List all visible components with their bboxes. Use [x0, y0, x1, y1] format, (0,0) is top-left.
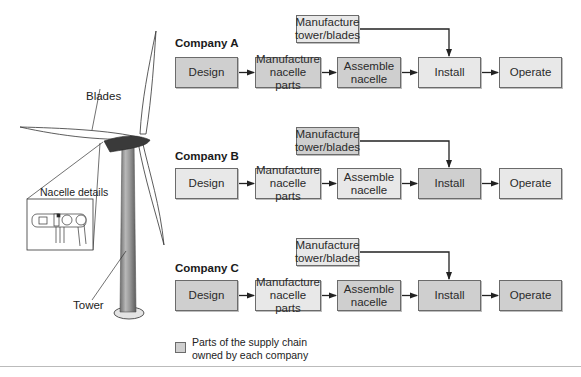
step-label: Install: [434, 177, 464, 190]
legend-text-line1: Parts of the supply chain: [192, 336, 308, 349]
step-label: Install: [434, 289, 464, 302]
step-label: Install: [434, 66, 464, 79]
company-a-side-step-label: Manufacture tower/blades: [295, 16, 360, 42]
company-b-side-step-box: Manufacture tower/blades: [296, 127, 359, 155]
step-label: Design: [189, 66, 225, 79]
step-label: Operate: [510, 66, 552, 79]
company-b-step-design: Design: [175, 168, 238, 199]
company-b-side-flow-arrow: [359, 141, 449, 167]
company-a-step-install: Install: [418, 57, 481, 88]
company-c-side-step-label: Manufacture tower/blades: [295, 239, 360, 265]
company-a-side-step-box: Manufacture tower/blades: [296, 15, 359, 43]
step-label: Design: [189, 289, 225, 302]
step-label: Assemble nacelle: [338, 283, 400, 309]
company-b-side-step-label: Manufacture tower/blades: [295, 128, 360, 154]
supply-chain-diagram: Blades Nacelle details Tower Company A M…: [0, 0, 581, 377]
company-a-step-design: Design: [175, 57, 238, 88]
company-b-step-install: Install: [418, 168, 481, 199]
company-a-side-flow-arrow: [359, 29, 449, 56]
step-label: Manufacture nacelle parts: [256, 164, 320, 203]
step-label: Assemble nacelle: [338, 60, 400, 86]
bottom-divider: [0, 366, 581, 367]
company-c-step-assemble-nacelle: Assemble nacelle: [337, 280, 401, 311]
step-label: Manufacture nacelle parts: [256, 276, 320, 315]
company-c-side-flow-arrow: [359, 252, 449, 279]
company-a-step-manufacture-nacelle-parts: Manufacture nacelle parts: [255, 57, 321, 88]
step-label: Assemble nacelle: [338, 171, 400, 197]
company-a-label: Company A: [175, 37, 238, 49]
company-c-step-install: Install: [418, 280, 481, 311]
step-label: Operate: [510, 289, 552, 302]
legend-text-line2: owned by each company: [192, 349, 308, 362]
company-c-step-manufacture-nacelle-parts: Manufacture nacelle parts: [255, 280, 321, 311]
company-b-step-assemble-nacelle: Assemble nacelle: [337, 168, 401, 199]
company-b-step-manufacture-nacelle-parts: Manufacture nacelle parts: [255, 168, 321, 199]
legend-text: Parts of the supply chain owned by each …: [192, 336, 308, 362]
step-label: Design: [189, 177, 225, 190]
company-a-step-operate: Operate: [499, 57, 562, 88]
company-c-step-operate: Operate: [499, 280, 562, 311]
company-c-label: Company C: [175, 262, 239, 274]
company-b-step-operate: Operate: [499, 168, 562, 199]
legend-owned-swatch: [175, 342, 186, 353]
company-a-step-assemble-nacelle: Assemble nacelle: [337, 57, 401, 88]
company-c-step-design: Design: [175, 280, 238, 311]
step-label: Operate: [510, 177, 552, 190]
company-b-label: Company B: [175, 150, 239, 162]
step-label: Manufacture nacelle parts: [256, 53, 320, 92]
company-c-side-step-box: Manufacture tower/blades: [296, 238, 359, 266]
